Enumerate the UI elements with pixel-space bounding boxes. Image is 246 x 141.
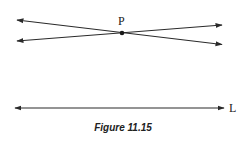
point-p	[120, 31, 125, 36]
point-p-label: P	[118, 14, 125, 28]
figure-caption: Figure 11.15	[94, 122, 152, 133]
line-l-label: L	[229, 101, 236, 115]
geometry-figure: P L Figure 11.15	[0, 0, 246, 141]
